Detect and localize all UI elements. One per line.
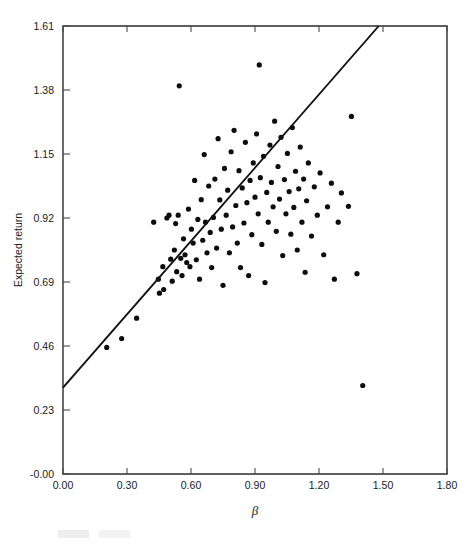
scatter-point (247, 178, 252, 183)
scatter-point (197, 277, 202, 282)
scatter-point (157, 291, 162, 296)
scatter-point (287, 189, 292, 194)
scatter-point (262, 280, 267, 285)
scatter-point (291, 205, 296, 210)
scatter-point (283, 211, 288, 216)
scatter-point (240, 185, 245, 190)
scatter-point (243, 140, 248, 145)
scatter-point (184, 260, 189, 265)
scatter-point (225, 188, 230, 193)
scatter-point (235, 240, 240, 245)
scatter-point (303, 270, 308, 275)
scatter-point (271, 204, 276, 209)
scatter-point (317, 170, 322, 175)
y-tick-label: 1.61 (34, 20, 55, 32)
scatter-point (209, 265, 214, 270)
scatter-point (329, 181, 334, 186)
scatter-point (267, 143, 272, 148)
scatter-point (288, 232, 293, 237)
scatter-point (212, 176, 217, 181)
y-tick-label: 0.92 (34, 212, 55, 224)
x-tick-label: 1.80 (437, 479, 458, 491)
x-tick-label: 1.50 (373, 479, 394, 491)
scatter-point (339, 190, 344, 195)
scatter-point (214, 245, 219, 250)
x-tick-label: 0.60 (181, 479, 202, 491)
y-tick-label: 1.38 (34, 84, 55, 96)
scatter-point (202, 152, 207, 157)
scatter-point (187, 264, 192, 269)
scatter-point (233, 203, 238, 208)
scatter-point (224, 213, 229, 218)
scatter-point (354, 271, 359, 276)
scatter-point (256, 211, 261, 216)
scatter-point (285, 151, 290, 156)
x-tick-label: 0.30 (117, 479, 138, 491)
scatter-point (304, 198, 309, 203)
scatter-point (160, 264, 165, 269)
scatter-point (182, 252, 187, 257)
scatter-point (199, 197, 204, 202)
scatter-point (230, 224, 235, 229)
scatter-point (204, 250, 209, 255)
scatter-point (192, 178, 197, 183)
scatter-point (220, 283, 225, 288)
scatter-point (293, 169, 298, 174)
scatter-point (200, 238, 205, 243)
scatter-point (266, 220, 271, 225)
x-tick-label: 1.20 (309, 479, 330, 491)
scatter-point (259, 242, 264, 247)
scatter-point (181, 236, 186, 241)
scatter-point (295, 247, 300, 252)
scatter-point (244, 200, 249, 205)
scatter-point (189, 227, 194, 232)
scatter-point (360, 383, 365, 388)
scatter-point (208, 230, 213, 235)
scatter-point (174, 269, 179, 274)
scatter-point (227, 250, 232, 255)
scatter-point (309, 233, 314, 238)
scatter-point (238, 265, 243, 270)
y-axis-title: Expected return (12, 213, 24, 287)
scatter-point (251, 160, 256, 165)
scatter-point (336, 220, 341, 225)
scatter-point (301, 176, 306, 181)
scatter-point (241, 220, 246, 225)
scatter-point (306, 160, 311, 165)
y-tick-label: -0.00 (30, 468, 54, 480)
scatter-point (315, 213, 320, 218)
scatter-point (282, 177, 287, 182)
scatter-point (280, 253, 285, 258)
scatter-point (346, 204, 351, 209)
scatter-point (332, 277, 337, 282)
scatter-point (257, 62, 262, 67)
y-tick-label: 1.15 (34, 148, 55, 160)
scatter-point (219, 227, 224, 232)
x-axis-title: β (251, 503, 259, 518)
scatter-point (246, 273, 251, 278)
scatter-point (252, 195, 257, 200)
scatter-point (298, 144, 303, 149)
scatter-point (173, 221, 178, 226)
scatter-point (299, 220, 304, 225)
scatter-point (321, 252, 326, 257)
scatter-point (269, 180, 274, 185)
scatter-point (277, 196, 282, 201)
scatter-point (194, 257, 199, 262)
scatter-point (172, 247, 177, 252)
scatter-point (272, 119, 277, 124)
scatter-point (161, 287, 166, 292)
scatter-plot-figure: 0.000.300.600.901.201.501.80 -0.000.230.… (0, 0, 476, 546)
scatter-point (222, 166, 227, 171)
scatter-point (312, 184, 317, 189)
scatter-point (254, 131, 259, 136)
scatter-point (249, 232, 254, 237)
scatter-point (325, 204, 330, 209)
scatter-point (275, 164, 280, 169)
scatter-point (349, 114, 354, 119)
scatter-point (166, 213, 171, 218)
scatter-point (264, 190, 269, 195)
scatter-point (274, 229, 279, 234)
plot-canvas: 0.000.300.600.901.201.501.80 -0.000.230.… (0, 0, 476, 546)
scatter-point (258, 175, 263, 180)
